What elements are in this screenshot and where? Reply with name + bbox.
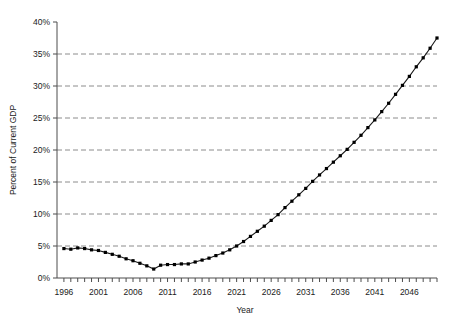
data-point-marker [401, 84, 404, 87]
data-series-markers [62, 36, 438, 270]
data-point-marker [131, 259, 134, 262]
data-point-marker [428, 47, 431, 50]
data-point-marker [359, 134, 362, 137]
y-tick-label: 40% [33, 17, 50, 27]
data-point-marker [90, 248, 93, 251]
data-point-marker [318, 173, 321, 176]
data-point-marker [394, 93, 397, 96]
x-tick-label: 2001 [89, 287, 108, 297]
y-tick-label: 25% [33, 113, 50, 123]
data-point-marker [373, 118, 376, 121]
data-point-marker [352, 141, 355, 144]
y-tick-label: 20% [33, 145, 50, 155]
data-point-marker [332, 161, 335, 164]
data-point-marker [180, 262, 183, 265]
y-axis-title: Percent of Current GDP [8, 105, 18, 196]
data-point-marker [235, 244, 238, 247]
x-tick-label: 1996 [54, 287, 73, 297]
x-tick-label: 2006 [124, 287, 143, 297]
data-point-marker [97, 249, 100, 252]
data-point-marker [387, 102, 390, 105]
data-point-marker [62, 247, 65, 250]
data-point-marker [69, 248, 72, 251]
gridlines [57, 22, 437, 246]
data-point-marker [242, 240, 245, 243]
data-point-marker [228, 248, 231, 251]
x-tick-label: 2041 [365, 287, 384, 297]
data-point-marker [221, 251, 224, 254]
data-point-marker [111, 253, 114, 256]
data-point-marker [187, 262, 190, 265]
line-chart: 0%5%10%15%20%25%30%35%40% 19962001200620… [0, 0, 452, 326]
data-point-marker [325, 167, 328, 170]
x-tick-label: 2036 [331, 287, 350, 297]
data-point-marker [173, 263, 176, 266]
y-tick-label: 15% [33, 177, 50, 187]
data-point-marker [76, 246, 79, 249]
x-tick-label: 2021 [227, 287, 246, 297]
data-point-marker [124, 257, 127, 260]
data-point-marker [435, 36, 438, 39]
y-axis [53, 22, 57, 278]
y-tick-label: 10% [33, 209, 50, 219]
y-tick-label: 0% [38, 273, 51, 283]
data-point-marker [346, 148, 349, 151]
x-tick-labels: 1996200120062011201620212026203120362041… [54, 287, 419, 297]
series-polyline [64, 38, 437, 269]
data-point-marker [422, 56, 425, 59]
data-point-marker [283, 206, 286, 209]
data-point-marker [214, 254, 217, 257]
x-tick-label: 2016 [193, 287, 212, 297]
data-point-marker [83, 247, 86, 250]
x-axis [57, 278, 437, 282]
data-point-marker [159, 264, 162, 267]
x-tick-label: 2011 [158, 287, 177, 297]
data-point-marker [200, 258, 203, 261]
data-point-marker [104, 251, 107, 254]
data-point-marker [339, 154, 342, 157]
data-point-marker [166, 263, 169, 266]
y-tick-labels: 0%5%10%15%20%25%30%35%40% [33, 17, 50, 283]
x-axis-title: Year [236, 305, 253, 315]
data-point-marker [290, 200, 293, 203]
x-tick-label: 2026 [262, 287, 281, 297]
y-tick-label: 30% [33, 81, 50, 91]
data-point-marker [276, 213, 279, 216]
data-point-marker [366, 126, 369, 129]
x-tick-label: 2031 [296, 287, 315, 297]
data-series-line [64, 38, 437, 269]
data-point-marker [270, 219, 273, 222]
data-point-marker [207, 257, 210, 260]
y-tick-label: 5% [38, 241, 51, 251]
data-point-marker [138, 262, 141, 265]
data-point-marker [304, 187, 307, 190]
data-point-marker [415, 65, 418, 68]
data-point-marker [408, 75, 411, 78]
data-point-marker [152, 267, 155, 270]
data-point-marker [145, 264, 148, 267]
data-point-marker [263, 225, 266, 228]
data-point-marker [380, 110, 383, 113]
data-point-marker [256, 230, 259, 233]
data-point-marker [118, 255, 121, 258]
data-point-marker [194, 260, 197, 263]
data-point-marker [297, 193, 300, 196]
y-tick-label: 35% [33, 49, 50, 59]
x-tick-label: 2046 [400, 287, 419, 297]
chart-container: 0%5%10%15%20%25%30%35%40% 19962001200620… [0, 0, 452, 326]
data-point-marker [249, 235, 252, 238]
data-point-marker [311, 180, 314, 183]
